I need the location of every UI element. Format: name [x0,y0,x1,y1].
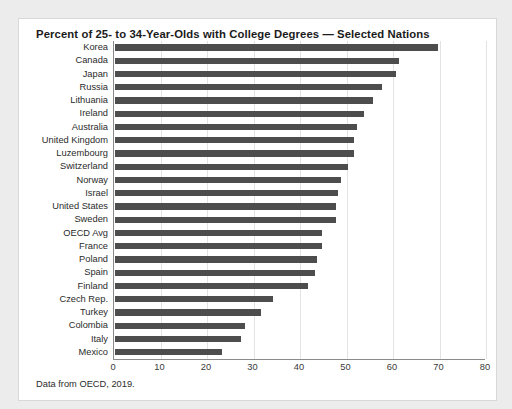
category-label: Spain [84,266,108,279]
x-tick-label: 30 [247,362,257,372]
plot-area: KoreaCanadaJapanRussiaLithuaniaIrelandAu… [113,41,485,359]
bar-row: Spain [114,266,485,279]
bar-row: Canada [114,54,485,67]
bar-row: Ireland [114,107,485,120]
bar-row: Mexico [114,346,485,359]
x-tick-label: 40 [294,362,304,372]
bar [115,323,245,329]
chart-plot: KoreaCanadaJapanRussiaLithuaniaIrelandAu… [19,19,498,402]
category-label: Australia [72,121,108,134]
bar-row: Italy [114,333,485,346]
bar [115,270,315,276]
category-label: Italy [91,333,108,346]
x-tick-label: 0 [110,362,115,372]
bar [115,71,396,77]
bar-row: France [114,240,485,253]
bar [115,44,438,50]
x-tick-label: 50 [340,362,350,372]
category-label: Israel [85,187,108,200]
category-label: Ireland [80,107,108,120]
bar [115,336,241,342]
bar [115,84,382,90]
category-label: Luzembourg [56,147,108,160]
bar [115,256,317,262]
bar-row: Colombia [114,319,485,332]
category-label: Norway [76,174,108,187]
category-label: OECD Avg [63,227,108,240]
bar [115,296,273,302]
x-tick-label: 70 [433,362,443,372]
bar [115,217,336,223]
bar-row: Lithuania [114,94,485,107]
x-tick-label: 20 [201,362,211,372]
bar-row: Japan [114,68,485,81]
bar-row: Poland [114,253,485,266]
x-tick-label: 60 [387,362,397,372]
bar [115,111,364,117]
bar-row: Finland [114,280,485,293]
bar [115,97,373,103]
bar [115,283,308,289]
category-label: Japan [83,68,108,81]
gridline [486,41,487,359]
bar [115,190,338,196]
bar [115,203,336,209]
bar-row: Switzerland [114,160,485,173]
bar [115,243,322,249]
bar [115,177,341,183]
category-label: Lithuania [70,94,108,107]
bar-row: Sweden [114,213,485,226]
bar [115,150,354,156]
bar-row: Israel [114,187,485,200]
bar-row: Australia [114,121,485,134]
x-axis-line [113,359,485,360]
category-label: Canada [75,54,108,67]
category-label: Colombia [69,319,108,332]
category-label: Korea [83,41,108,54]
bar-row: Russia [114,81,485,94]
bar [115,124,357,130]
bar [115,164,348,170]
category-label: Mexico [79,346,108,359]
category-label: Finland [78,280,109,293]
bar-row: United States [114,200,485,213]
bar-row: Luzembourg [114,147,485,160]
bar-row: OECD Avg [114,227,485,240]
category-label: United Kingdom [42,134,108,147]
bar-row: Czech Rep. [114,293,485,306]
bar [115,58,399,64]
bar [115,137,354,143]
category-label: Turkey [80,306,108,319]
category-label: Sweden [74,213,108,226]
bar-row: United Kingdom [114,134,485,147]
category-label: Switzerland [60,160,108,173]
x-tick-label: 10 [154,362,164,372]
source-caption: Data from OECD, 2019. [36,379,135,389]
bar [115,309,261,315]
category-label: Russia [80,81,108,94]
category-label: Poland [79,253,108,266]
category-label: Czech Rep. [59,293,108,306]
bar [115,349,222,355]
category-label: United States [52,200,108,213]
category-label: France [79,240,108,253]
x-tick-label: 80 [480,362,490,372]
chart-card: Percent of 25- to 34-Year-Olds with Coll… [18,18,497,401]
bar-row: Norway [114,174,485,187]
bar-row: Korea [114,41,485,54]
bar-row: Turkey [114,306,485,319]
bar [115,230,322,236]
